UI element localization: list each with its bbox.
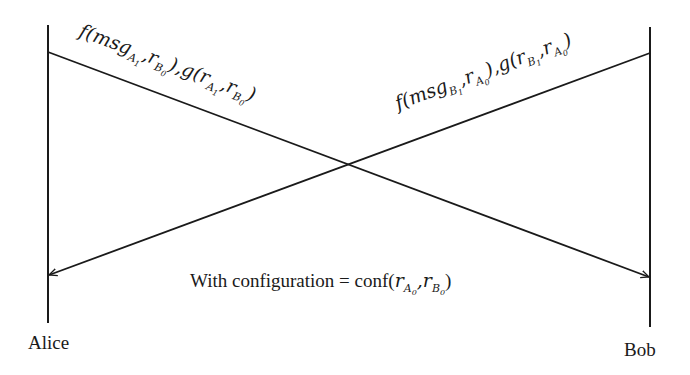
svg-text:f(msgB1,rA0),g(rB1,rA0): f(msgB1,rA0),g(rB1,rA0) bbox=[390, 28, 577, 120]
sequence-diagram: f(msgA1,rB0),g(rA1,rB0) f(msgB1,rA0),g(r… bbox=[0, 0, 690, 375]
configuration-note: With configuration = conf(rA0,rB0) bbox=[190, 269, 451, 297]
message-label-bob-to-alice: f(msgB1,rA0),g(rB1,rA0) bbox=[390, 28, 577, 120]
participant-label-alice: Alice bbox=[28, 332, 69, 353]
participant-label-bob: Bob bbox=[624, 339, 656, 360]
